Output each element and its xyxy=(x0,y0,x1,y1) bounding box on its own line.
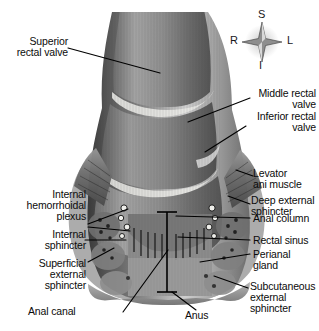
compass-label-inferior: I xyxy=(259,59,262,71)
label-rectal-sinus: Rectal sinus xyxy=(253,235,319,246)
compass-label-left: L xyxy=(287,34,293,46)
label-middle-rectal-valve: Middle rectal valve xyxy=(234,88,316,110)
compass-label-right: R xyxy=(230,34,238,46)
label-anal-canal: Anal canal xyxy=(28,306,108,317)
label-inferior-rectal-valve: Inferior rectal valve xyxy=(234,111,316,133)
compass-label-superior: S xyxy=(258,8,265,20)
label-perianal-gland: Perianal gland xyxy=(253,249,319,271)
label-superior-rectal-valve: Superior rectal valve xyxy=(6,36,68,58)
label-internal-hemorrhoidal-plexus: Internal hemorrhoidal plexus xyxy=(4,189,86,223)
label-internal-sphincter: Internal sphincter xyxy=(6,229,86,251)
label-superficial-external-sphincter: Superficial external sphincter xyxy=(4,258,86,292)
label-anus: Anus xyxy=(185,310,225,321)
label-levator-ani-muscle: Levator ani muscle xyxy=(253,168,319,190)
anal-columns xyxy=(128,214,212,296)
anatomy-figure: S I R L Superior rectal valve Internal h… xyxy=(0,0,319,331)
label-subcutaneous-external-sphincter: Subcutaneous external sphincter xyxy=(250,281,319,315)
label-anal-column: Anal column xyxy=(253,213,319,224)
